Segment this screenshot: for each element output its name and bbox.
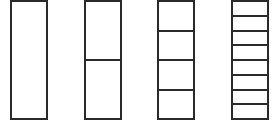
bar-segment bbox=[233, 30, 267, 45]
bar-segment bbox=[233, 59, 267, 74]
bar-segment bbox=[233, 2, 267, 15]
bar-segment bbox=[86, 2, 120, 59]
fraction-bar-whole bbox=[10, 0, 48, 120]
bar-segment bbox=[233, 15, 267, 30]
fraction-bar-eighths bbox=[231, 0, 269, 120]
bar-segment bbox=[159, 2, 193, 30]
bar-segment bbox=[159, 89, 193, 119]
bar-segment bbox=[233, 74, 267, 89]
bar-segment bbox=[86, 59, 120, 118]
fraction-bar-quarters bbox=[157, 0, 195, 120]
fraction-bar-halves bbox=[84, 0, 122, 120]
bar-segment bbox=[12, 2, 46, 118]
bar-segment bbox=[159, 30, 193, 60]
bar-segment bbox=[159, 59, 193, 89]
bar-segment bbox=[233, 89, 267, 104]
bar-segment bbox=[233, 103, 267, 118]
bar-segment bbox=[233, 44, 267, 59]
